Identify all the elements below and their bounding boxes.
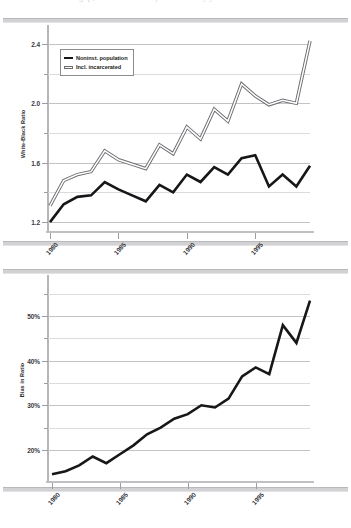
- y-axis-tick-label: 2.4: [14, 40, 40, 47]
- y-axis-tick-label: 20%: [14, 446, 40, 453]
- y-axis-title-bottom: Bias in Ratio: [19, 350, 25, 410]
- x-axis-tick-label: 1995: [250, 491, 265, 506]
- x-axis-tick-label: 1990: [182, 491, 197, 506]
- series-line-bias: [52, 301, 310, 475]
- series-line-noninst: [50, 155, 310, 222]
- plot-area-bottom: 20%30%40%50%1980198519901995: [48, 285, 323, 481]
- legend-label-incarcerated: Incl. incarcerated: [76, 64, 121, 70]
- y-axis-tick-label: 50%: [14, 313, 40, 320]
- chart-panel-top: 1.21.62.02.41980198519901995 White-Black…: [0, 13, 351, 265]
- legend-item-noninst: Noninst. population: [64, 54, 128, 62]
- chart-legend: Noninst. population Incl. incarcerated: [60, 49, 134, 76]
- y-axis-tick-label: 40%: [14, 357, 40, 364]
- cropped-caption-strip: black-white gap, incarceration adjusted …: [0, 0, 351, 13]
- panel-bottom-rail-upper: [3, 269, 348, 274]
- x-axis-tick-label: 1985: [114, 491, 129, 506]
- legend-label-noninst: Noninst. population: [76, 55, 128, 61]
- y-axis-tick-label: 2.0: [14, 100, 40, 107]
- series-canvas: [48, 285, 323, 485]
- y-axis-title-top: White-Black Ratio: [20, 99, 26, 169]
- y-axis-tick-label: 1.6: [14, 159, 40, 166]
- line-swatch-light-icon: [64, 66, 73, 69]
- y-axis-tick-label: 30%: [14, 402, 40, 409]
- line-swatch-dark-icon: [64, 57, 73, 60]
- y-axis-tick-label: 1.2: [14, 219, 40, 226]
- chart-panel-bottom: 20%30%40%50%1980198519901995 Bias in Rat…: [0, 265, 351, 528]
- x-axis-tick-label: 1980: [46, 491, 61, 506]
- caption-text: black-white gap, incarceration adjusted …: [36, 0, 226, 2]
- panel-top-rail-upper: [3, 18, 348, 23]
- legend-item-incarcerated: Incl. incarcerated: [64, 63, 128, 71]
